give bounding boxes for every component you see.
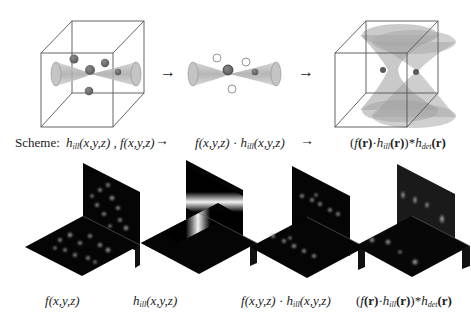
caption-illumination: hill(x,y,z) bbox=[133, 294, 177, 309]
r-vector: (r) bbox=[437, 293, 451, 308]
r-vector: (r) bbox=[396, 293, 410, 308]
caption-object: f(x,y,z) bbox=[45, 294, 80, 307]
h-subscript: ill bbox=[383, 142, 390, 151]
detection-cones bbox=[360, 24, 456, 128]
separator: , bbox=[110, 135, 120, 150]
scheme-label: Scheme: bbox=[15, 136, 60, 149]
f-args: (x,y,z) bbox=[199, 135, 230, 150]
scheme-step-1: hill(x,y,z) , f(x,y,z) bbox=[66, 136, 155, 151]
h-args: (x,y,z) bbox=[79, 135, 110, 150]
panel-illumination bbox=[141, 160, 257, 274]
scheme-step-3: (f(r)·hill(r))*hdet(r) bbox=[350, 136, 446, 151]
arrow-right-icon: → bbox=[160, 64, 176, 80]
r-vector: (r) bbox=[364, 293, 378, 308]
arrow-right-icon: → bbox=[155, 134, 169, 148]
panel-product bbox=[250, 166, 365, 278]
arrow-right-icon: → bbox=[298, 64, 314, 80]
f-args: (x,y,z) bbox=[245, 293, 276, 308]
h-args: (x,y,z) bbox=[300, 293, 331, 308]
volume-with-beam-panel bbox=[0, 0, 471, 320]
h-args: (x,y,z) bbox=[254, 135, 285, 150]
panel-object bbox=[25, 163, 140, 276]
paren-close-convolve: )* bbox=[410, 293, 421, 308]
illumination-beam-2 bbox=[188, 62, 281, 86]
dot-operator: · bbox=[276, 293, 287, 308]
h-subscript: ill bbox=[389, 300, 396, 309]
r-vector: (r) bbox=[431, 135, 445, 150]
h-subscript: ill bbox=[293, 300, 300, 309]
illumination-beam-1 bbox=[51, 62, 141, 86]
r-vector: (r) bbox=[358, 135, 372, 150]
f-args: (x,y,z) bbox=[49, 293, 80, 308]
f-args: (x,y,z) bbox=[124, 135, 155, 150]
caption-detected: (f(r)·hill(r))*hdet(r) bbox=[356, 294, 452, 309]
h-args: (x,y,z) bbox=[146, 293, 177, 308]
scheme-step-2: f(x,y,z) · hill(x,y,z) bbox=[195, 136, 285, 151]
panel-detected bbox=[355, 164, 470, 277]
paren-close-convolve: )* bbox=[404, 135, 415, 150]
r-vector: (r) bbox=[390, 135, 404, 150]
caption-product: f(x,y,z) · hill(x,y,z) bbox=[241, 294, 331, 309]
h-subscript: ill bbox=[247, 142, 254, 151]
arrow-right-icon: → bbox=[300, 134, 314, 148]
dot-operator: · bbox=[230, 135, 241, 150]
